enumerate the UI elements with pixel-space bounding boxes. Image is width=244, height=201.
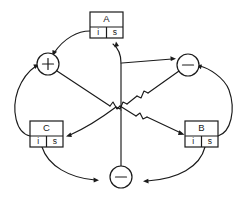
- box-a-name: A: [103, 13, 110, 24]
- edge-c-to-minus-bottom: [42, 147, 99, 182]
- box-b-synthesized-cell[interactable]: s: [208, 136, 212, 146]
- box-c-name: C: [43, 122, 50, 133]
- box-b-inherited-cell[interactable]: i: [192, 136, 194, 146]
- arrowhead-into-minus-bottom-from-b: [143, 179, 149, 184]
- arrowhead-into-c-s: [66, 133, 72, 138]
- operator-node-minus-bottom[interactable]: [110, 166, 132, 188]
- edge-a-i-to-plus: [52, 31, 90, 57]
- box-c-synthesized-cell[interactable]: s: [53, 136, 57, 146]
- edge-minus-right-to-c-s: [66, 71, 179, 137]
- attribute-dependency-diagram: A i s C i s B i s: [0, 0, 244, 201]
- arrowhead-into-a-s: [114, 42, 119, 48]
- edge-b-to-minus-bottom: [143, 147, 205, 184]
- attribute-box-b[interactable]: B i s: [185, 121, 218, 147]
- arrowhead-into-minus-right: [170, 56, 176, 61]
- box-c-inherited-cell[interactable]: i: [37, 136, 39, 146]
- arrowhead-into-b: [178, 130, 185, 135]
- operator-node-plus[interactable]: [37, 53, 59, 75]
- edge-center-to-minus-right: [122, 56, 176, 63]
- box-b-name: B: [198, 122, 204, 133]
- diagram-canvas: A i s C i s B i s: [0, 0, 244, 201]
- arrowhead-into-minus-bottom-from-c: [94, 178, 100, 183]
- attribute-box-a[interactable]: A i s: [90, 12, 123, 38]
- attribute-box-c[interactable]: C i s: [30, 121, 63, 147]
- operator-node-minus-right[interactable]: [177, 54, 199, 76]
- box-a-synthesized-cell[interactable]: s: [113, 27, 117, 37]
- box-a-inherited-cell[interactable]: i: [97, 27, 99, 37]
